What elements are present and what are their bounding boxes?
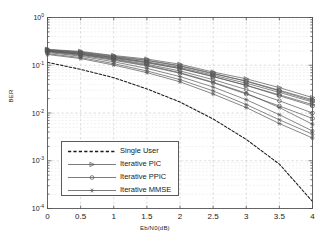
legend-label: Iterative PPIC: [120, 172, 166, 181]
x-tick-2-5: 2.5: [201, 212, 225, 221]
x-axis-label: Eb/N0(dB): [140, 225, 170, 231]
x-tick-3: 3: [234, 212, 258, 221]
y-tick--1: 10-1: [6, 60, 44, 69]
legend-swatch-circle: [66, 171, 118, 184]
legend-item-iterative-mmse: Iterative MMSE: [62, 184, 180, 197]
x-tick-3-5: 3.5: [267, 212, 291, 221]
legend-swatch-star: [66, 184, 118, 197]
legend-label: Iterative PIC: [120, 159, 161, 168]
ber-plot-svg: [0, 0, 327, 243]
x-tick-1: 1: [102, 212, 126, 221]
legend: Single UserIterative PICIterative PPICIt…: [61, 141, 179, 196]
legend-item-iterative-pic: Iterative PIC: [62, 158, 180, 171]
y-tick-exponent: -3: [40, 155, 44, 161]
legend-item-iterative-ppic: Iterative PPIC: [62, 171, 180, 184]
x-tick-2: 2: [168, 212, 192, 221]
chart-figure: 10010-110-210-310-4 00.511.522.533.54 BE…: [0, 0, 327, 243]
y-tick-exponent: 0: [41, 12, 44, 18]
y-axis-label: BER: [8, 76, 14, 116]
y-tick-exponent: -2: [40, 108, 44, 114]
y-tick-exponent: -4: [40, 203, 44, 209]
y-tick-exponent: -1: [40, 60, 44, 66]
y-tick-0: 100: [6, 12, 44, 21]
legend-label: Iterative MMSE: [120, 185, 171, 194]
legend-item-single-user: Single User: [62, 145, 180, 158]
x-tick-0: 0: [36, 212, 60, 221]
legend-swatch-triangle: [66, 158, 118, 171]
x-tick-1-5: 1.5: [135, 212, 159, 221]
x-tick-4: 4: [301, 212, 325, 221]
legend-label: Single User: [120, 146, 159, 155]
y-tick--3: 10-3: [6, 155, 44, 164]
legend-swatch-none: [66, 145, 118, 158]
y-tick-base: 10: [32, 110, 40, 117]
x-tick-0-5: 0.5: [69, 212, 93, 221]
y-tick-base: 10: [32, 158, 40, 165]
y-tick-base: 10: [32, 62, 40, 69]
